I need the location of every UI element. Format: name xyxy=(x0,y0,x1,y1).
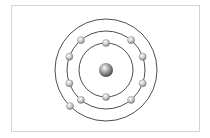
electron xyxy=(66,53,73,60)
electron xyxy=(139,80,146,87)
atom-diagram xyxy=(0,0,210,138)
electron xyxy=(102,93,109,100)
electron xyxy=(77,96,84,103)
electron xyxy=(66,80,73,87)
electron xyxy=(127,37,134,44)
nucleus xyxy=(99,63,113,77)
electron xyxy=(127,96,134,103)
electron xyxy=(102,39,109,46)
electron xyxy=(139,53,146,60)
electron xyxy=(77,37,84,44)
electron xyxy=(66,102,73,109)
